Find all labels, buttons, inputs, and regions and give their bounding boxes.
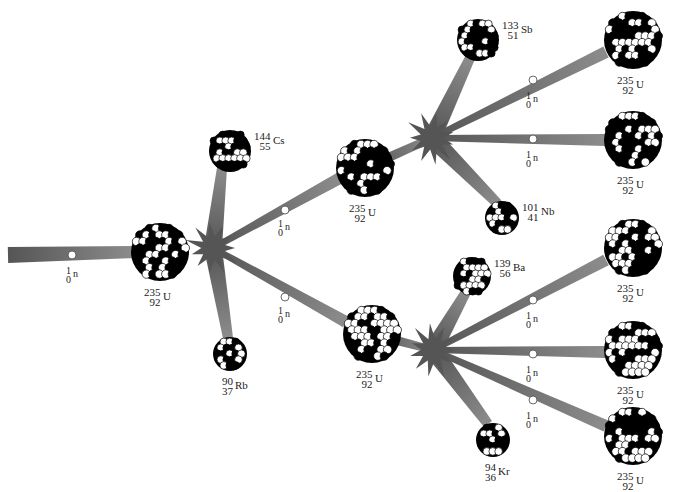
neutron-beam (212, 173, 343, 251)
neutron-label: 10n (278, 219, 283, 237)
atomic-number: 92 (617, 85, 634, 95)
atomic-number: 92 (617, 185, 634, 195)
isotope-label-u-gen3-2: 23592U (617, 175, 634, 195)
neutron-label: 10n (526, 411, 531, 429)
element-symbol: U (636, 475, 644, 485)
atomic-number: 51 (502, 30, 519, 40)
neutron-icon (529, 296, 537, 304)
atomic-number: 92 (617, 481, 634, 491)
neutron-icon (68, 251, 76, 259)
neutron-icon (529, 135, 537, 143)
atomic-number: 92 (617, 293, 634, 303)
atomic-number: 92 (617, 395, 634, 405)
isotope-label-u-gen2-top: 23592U (349, 203, 366, 223)
element-symbol: Nb (541, 206, 554, 216)
nucleus-sb (457, 19, 499, 61)
neutron-beam (433, 346, 605, 358)
nucleus-u-gen3-2 (604, 111, 663, 169)
element-symbol: Rb (235, 380, 248, 390)
nucleus-u-gen3-3 (604, 219, 663, 277)
nucleus-u-gen2-bottom (343, 305, 401, 363)
atomic-number: 55 (254, 141, 271, 151)
nucleus-u-gen3-1 (604, 11, 663, 69)
element-symbol: U (636, 389, 644, 399)
element-symbol: U (636, 179, 644, 189)
nucleus-nb (485, 201, 519, 235)
atomic-number: 36 (485, 472, 496, 482)
atomic-number: 37 (222, 386, 233, 396)
isotope-label-u-gen2-bottom: 23592U (356, 369, 373, 389)
neutron-label: 10n (526, 311, 531, 329)
element-symbol: U (368, 207, 376, 217)
isotope-label-nb: 10141Nb (522, 202, 539, 222)
isotope-label-kr: 9436Kr (485, 462, 496, 482)
isotope-label-ba: 13956Ba (494, 258, 511, 278)
element-symbol: U (163, 291, 171, 301)
explosion-star-icon (186, 223, 238, 273)
element-symbol: Kr (498, 466, 510, 476)
element-symbol: U (636, 79, 644, 89)
neutron-label: 10n (278, 306, 283, 324)
nucleus-u-gen3-5 (604, 407, 663, 465)
isotope-label-rb: 9037Rb (222, 376, 233, 396)
neutron-icon (529, 350, 537, 358)
nucleus-cs (209, 130, 251, 172)
nucleus-u-gen3-4 (604, 321, 663, 379)
neutron-label: 10n (526, 365, 531, 383)
nucleus-kr (476, 423, 510, 457)
neutron-icon (281, 293, 289, 301)
element-symbol: Sb (521, 24, 533, 34)
isotope-label-u-gen1: 23592U (144, 287, 161, 307)
element-symbol: U (375, 373, 383, 383)
neutron-icon (529, 76, 537, 84)
atomic-number: 92 (349, 213, 366, 223)
isotope-label-sb: 13351Sb (502, 20, 519, 40)
neutron-beam (432, 134, 605, 146)
neutron-label: 10n (526, 150, 531, 168)
element-symbol: Ba (513, 262, 525, 272)
neutron-beams (8, 47, 609, 432)
element-symbol: U (636, 287, 644, 297)
atomic-number: 41 (522, 212, 539, 222)
isotope-label-u-gen3-1: 23592U (617, 75, 634, 95)
nucleus-rb (213, 337, 247, 371)
nucleus-u-gen2-top (336, 139, 394, 197)
isotope-label-u-gen3-3: 23592U (617, 283, 634, 303)
nucleus-u-gen1 (131, 223, 190, 281)
atomic-number: 92 (144, 297, 161, 307)
neutron-icon (529, 396, 537, 404)
neutron-label: 10n (526, 91, 531, 109)
atomic-number: 92 (356, 379, 373, 389)
atomic-number: 56 (494, 268, 511, 278)
isotope-label-u-gen3-5: 23592U (617, 471, 634, 491)
element-symbol: Cs (273, 135, 285, 145)
neutron-label: 10n (66, 266, 71, 284)
isotope-label-u-gen3-4: 23592U (617, 385, 634, 405)
nucleus-ba (453, 257, 491, 295)
neutron-icon (281, 206, 289, 214)
isotope-label-cs: 14455Cs (254, 131, 271, 151)
